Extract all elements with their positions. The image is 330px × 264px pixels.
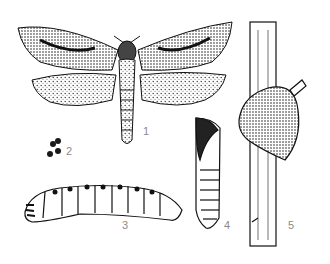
stem-drawing xyxy=(239,22,306,246)
lifecycle-illustration xyxy=(0,0,330,264)
label-2: 2 xyxy=(66,146,72,157)
pupa-drawing xyxy=(196,118,220,228)
larva-drawing xyxy=(25,185,182,223)
label-5: 5 xyxy=(288,220,294,231)
eggs-drawing xyxy=(47,138,61,157)
label-3: 3 xyxy=(122,220,128,231)
label-1: 1 xyxy=(143,126,149,137)
label-4: 4 xyxy=(224,220,230,231)
